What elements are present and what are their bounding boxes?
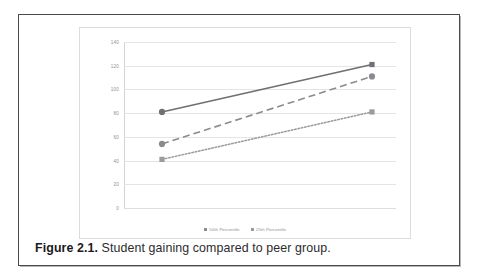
series-plot	[124, 42, 396, 208]
y-tick-label-100: 100	[111, 87, 119, 92]
plot-area: 140 120 100 80 60 40 20 0	[124, 42, 396, 208]
y-tick-label-120: 120	[111, 63, 119, 68]
legend-swatch-50th-icon	[204, 228, 207, 231]
y-tick-label-0: 0	[116, 206, 119, 211]
y-tick-label-40: 40	[113, 158, 119, 163]
legend-label-50th: 50th Percentile	[209, 227, 239, 232]
figure-caption: Figure 2.1. Student gaining compared to …	[35, 241, 445, 255]
gridline-0: 0	[124, 208, 396, 209]
figure-frame: 140 120 100 80 60 40 20 0	[18, 14, 460, 266]
y-tick-label-80: 80	[113, 111, 119, 116]
figure-caption-number: Figure 2.1.	[35, 241, 98, 255]
legend-label-25th: 25th Percentile	[256, 227, 286, 232]
chart-container: 140 120 100 80 60 40 20 0	[79, 27, 411, 239]
legend-entry-50th[interactable]: 50th Percentile	[204, 227, 240, 232]
figure-caption-text: Student gaining compared to peer group.	[98, 241, 331, 255]
y-tick-label-60: 60	[113, 134, 119, 139]
legend-entry-25th[interactable]: 25th Percentile	[251, 227, 287, 232]
legend-swatch-25th-icon	[251, 228, 254, 231]
y-tick-label-140: 140	[111, 40, 119, 45]
y-tick-label-20: 20	[113, 182, 119, 187]
chart-legend: 50th Percentile 25th Percentile	[80, 227, 410, 232]
